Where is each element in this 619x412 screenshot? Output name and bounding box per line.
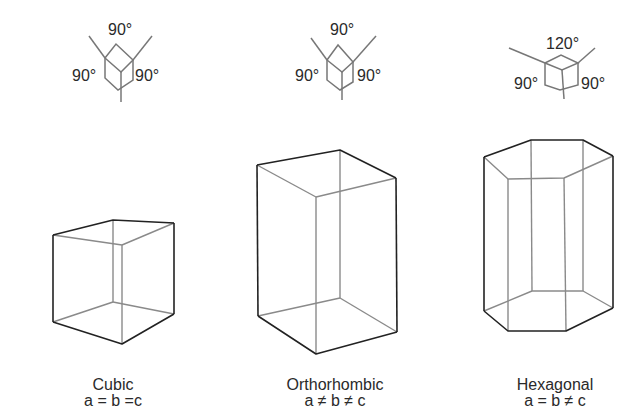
hexagonal-relation: a = b ≠ c [495, 393, 615, 409]
crystal-diagram [0, 0, 619, 412]
cubic-angle-right: 90° [135, 68, 159, 84]
orthorhombic-caption: Orthorhombic a ≠ b ≠ c [255, 377, 415, 409]
orthorhombic-cell-shape [257, 150, 397, 354]
cubic-name: Cubic [63, 377, 163, 393]
orthorhombic-name: Orthorhombic [255, 377, 415, 393]
cubic-angle-top: 90° [108, 22, 132, 38]
orthorhombic-angle-right: 90° [357, 68, 381, 84]
orthorhombic-angle-left: 90° [295, 68, 319, 84]
hexagonal-angle-right: 90° [581, 76, 605, 92]
cubic-cell-shape [53, 220, 174, 344]
hexagonal-cell-shape [484, 140, 613, 331]
cubic-relation: a = b =c [63, 393, 163, 409]
hexagonal-name: Hexagonal [495, 377, 615, 393]
cubic-caption: Cubic a = b =c [63, 377, 163, 409]
hexagonal-caption: Hexagonal a = b ≠ c [495, 377, 615, 409]
hexagonal-angle-left: 90° [514, 76, 538, 92]
cubic-angle-left: 90° [72, 68, 96, 84]
orthorhombic-angle-top: 90° [330, 22, 354, 38]
hexagonal-angle-top: 120° [546, 36, 579, 52]
orthorhombic-relation: a ≠ b ≠ c [255, 393, 415, 409]
